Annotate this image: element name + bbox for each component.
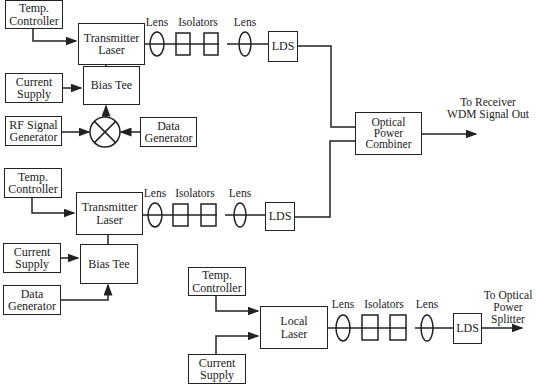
local-laser: Local Laser	[260, 306, 328, 349]
optical-power-combiner: Optical Power Combiner	[355, 112, 422, 155]
transmitter-laser-2: Transmitter Laser	[76, 192, 143, 235]
isolators-label-2: Isolators	[170, 187, 220, 199]
isolators-label-1: Isolators	[172, 16, 224, 28]
data-generator-1: Data Generator	[140, 117, 197, 147]
lens-label-2a: Lens	[143, 187, 167, 199]
combiner-output-label: To Receiver WDM Signal Out	[440, 96, 536, 120]
lds-2: LDS	[265, 202, 295, 231]
lens-label-3b: Lens	[414, 298, 440, 310]
splitter-output-label: To Optical Power Splitter	[478, 289, 536, 325]
current-supply-1: Current Supply	[5, 73, 63, 103]
transmitter-laser-1: Transmitter Laser	[78, 23, 145, 65]
temp-controller-1: Temp. Controller	[5, 0, 63, 29]
lens-label-3a: Lens	[331, 298, 355, 310]
current-supply-local: Current Supply	[188, 354, 246, 384]
rf-signal-generator: RF Signal Generator	[5, 116, 62, 146]
lens-label-1a: Lens	[145, 16, 169, 28]
bias-tee-1: Bias Tee	[83, 66, 140, 105]
temp-controller-local: Temp. Controller	[188, 267, 246, 296]
temp-controller-2: Temp. Controller	[4, 168, 62, 198]
lens-label-2b: Lens	[227, 187, 253, 199]
lds-1: LDS	[268, 31, 298, 62]
data-generator-2: Data Generator	[3, 285, 61, 315]
bias-tee-2: Bias Tee	[80, 244, 138, 284]
current-supply-2: Current Supply	[3, 243, 61, 273]
isolators-label-3: Isolators	[358, 298, 410, 310]
lens-label-1b: Lens	[232, 16, 258, 28]
